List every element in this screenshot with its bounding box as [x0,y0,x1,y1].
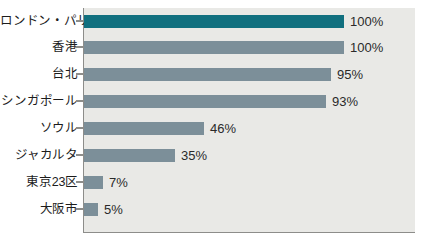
bar-value-label: 46% [210,122,236,135]
bar-value-label: 93% [332,95,358,108]
bar-value-label: 35% [181,149,207,162]
bar-row: 東京23区 7% [0,169,421,195]
bar-row: 香港 100% [0,34,421,60]
bar-row: ソウル 46% [0,115,421,141]
bar-row: ジャカルタ 35% [0,142,421,168]
bar-value-label: 5% [104,203,123,216]
bar-value-label: 95% [337,68,363,81]
category-label: 香港 [0,41,78,54]
bar-value-label: 100% [350,41,383,54]
bar-row: ロンドン・パリ 100% [0,8,421,34]
bar-osaka-city [84,203,98,216]
category-label: ジャカルタ [0,149,78,162]
axis-tick [76,73,83,75]
bar-jakarta [84,149,175,162]
category-label: ソウル [0,122,78,135]
axis-tick [76,181,83,183]
category-label: シンガポール [0,95,78,108]
axis-tick [76,154,83,156]
axis-tick [76,127,83,129]
axis-tick [76,20,83,22]
category-label: 東京23区 [0,176,78,189]
category-label: ロンドン・パリ [0,15,78,28]
bar-rows: ロンドン・パリ 100% 香港 100% 台北 95% シンガポール 93% [0,8,421,233]
bar-chart: ロンドン・パリ 100% 香港 100% 台北 95% シンガポール 93% [0,0,421,241]
bar-tokyo-23-wards [84,176,103,189]
bar-london-paris [84,15,344,28]
category-label: 台北 [0,68,78,81]
bar-value-label: 7% [109,176,128,189]
bar-taipei [84,68,331,81]
category-label: 大阪市 [0,203,78,216]
axis-tick [76,100,83,102]
bar-seoul [84,122,204,135]
axis-tick [76,46,83,48]
bar-row: シンガポール 93% [0,88,421,114]
bar-hong-kong [84,41,344,54]
bar-value-label: 100% [350,15,383,28]
axis-tick [76,208,83,210]
bar-row: 大阪市 5% [0,196,421,222]
bar-singapore [84,95,326,108]
bar-row: 台北 95% [0,61,421,87]
